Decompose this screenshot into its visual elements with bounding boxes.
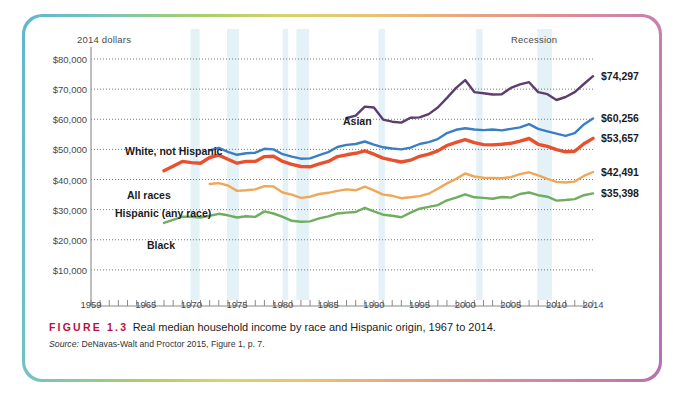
y-tick-label: $80,000 [53,54,87,65]
x-tick-label: 1975 [226,299,247,310]
x-tick-label: 2005 [500,299,521,310]
series-label-black: Black [147,239,175,251]
x-tick-label: 1959 [80,299,101,310]
line-chart [25,17,659,317]
x-axis-tick-labels: 1959196519701975198019851990199520002005… [25,299,659,319]
end-label-asian: $74,297 [601,70,639,82]
x-tick-label: 1995 [409,299,430,310]
x-tick-label: 1990 [363,299,384,310]
recession-band [537,29,552,300]
y-tick-label: $10,000 [53,264,87,275]
x-tick-label: 1970 [181,299,202,310]
y-tick-label: $60,000 [53,114,87,125]
end-label-black: $35,398 [601,187,639,199]
y-tick-label: $20,000 [53,234,87,245]
source-label: Source: [49,339,79,349]
series-line-white-not-hispanic [210,119,593,159]
figure-source: Source: DeNavas-Walt and Proctor 2015, F… [49,339,265,349]
figure-caption: FIGURE 1.3 Real median household income … [49,317,639,335]
end-label-all: $53,657 [601,132,639,144]
x-tick-label: 1985 [318,299,339,310]
recession-band [476,29,482,300]
y-tick-label: $70,000 [53,84,87,95]
series-label-hispanic: Hispanic (any race) [115,207,211,219]
figure-card: 2014 dollars Recession $10,000$20,000$30… [22,14,662,382]
series-label-white: White, not Hispanic [125,145,222,157]
series-label-asian: Asian [343,115,372,127]
figure-caption-text: Real median household income by race and… [133,321,496,333]
figure-number: FIGURE 1.3 [49,321,128,333]
figure-inner: 2014 dollars Recession $10,000$20,000$30… [25,17,659,379]
x-tick-label: 1965 [135,299,156,310]
x-tick-label: 1980 [272,299,293,310]
end-label-white: $60,256 [601,112,639,124]
recession-note: Recession [511,34,557,45]
y-tick-label: $50,000 [53,144,87,155]
x-tick-label: 2010 [546,299,567,310]
x-tick-label: 2000 [455,299,476,310]
y-tick-label: $30,000 [53,204,87,215]
x-tick-label: 2014 [582,299,603,310]
recession-band [379,29,385,300]
source-text: DeNavas-Walt and Proctor 2015, Figure 1,… [81,339,264,349]
series-label-all: All races [127,189,171,201]
y-tick-label: $40,000 [53,174,87,185]
end-label-hispanic: $42,491 [601,166,639,178]
